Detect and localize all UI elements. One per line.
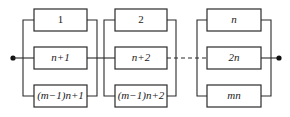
block-label: n+1	[51, 51, 69, 63]
block-label: 2n	[229, 51, 241, 63]
block-label: (m−1)n+1	[37, 89, 84, 102]
block-label: n+2	[132, 51, 151, 63]
block-label: (m−1)n+2	[118, 89, 165, 102]
block-label: 2	[138, 13, 144, 25]
output-node	[276, 55, 281, 60]
block-label: 1	[58, 13, 64, 25]
parallel-group-1: 1 n+1 (m−1)n+1	[23, 9, 97, 107]
parallel-group-2: 2 n+2 (m−1)n+2	[104, 9, 176, 107]
reliability-diagram: 1 n+1 (m−1)n+1 2 n+2 (m−1)n+2 n 2n mn	[0, 0, 290, 117]
block-label: mn	[227, 89, 241, 101]
block-label: n	[231, 13, 237, 25]
parallel-group-n: n 2n mn	[197, 9, 271, 107]
